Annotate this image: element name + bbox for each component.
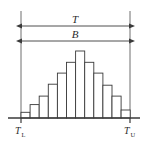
bar-10 (103, 85, 112, 118)
bar-6 (67, 62, 76, 118)
bar-1 (21, 112, 30, 118)
bar-2 (30, 105, 39, 118)
bar-3 (39, 96, 48, 118)
bar-9 (94, 73, 103, 118)
bar-12 (121, 110, 130, 118)
upper-limit-label: T U (124, 125, 136, 138)
histogram-figure: T B T L T U (0, 0, 147, 142)
dimension-base: B (22, 28, 129, 41)
histogram-svg: T B T L T U (0, 0, 147, 142)
bar-7 (76, 51, 85, 118)
upper-limit-subscript: U (131, 131, 136, 138)
lower-limit-label: T L (15, 125, 26, 138)
base-span-label: B (72, 28, 79, 40)
lower-limit-subscript: L (22, 131, 26, 138)
bar-11 (112, 96, 121, 118)
bar-8 (85, 62, 94, 118)
bar-4 (48, 84, 57, 118)
total-span-label: T (72, 13, 79, 25)
bar-5 (57, 73, 66, 118)
dimension-total: T (22, 13, 129, 26)
histogram-bars (21, 51, 130, 118)
